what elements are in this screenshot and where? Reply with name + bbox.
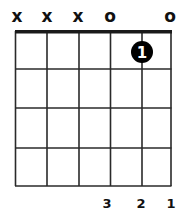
bottom-label-1: 1 [166, 196, 175, 211]
string-marker-4: x [73, 6, 84, 26]
string-markers: x x x o o [12, 6, 176, 26]
nut [15, 30, 172, 34]
bottom-label-3: 3 [102, 196, 111, 211]
chord-diagram: x x x o o 1 3 2 1 [0, 0, 183, 219]
finger-number: 1 [137, 44, 147, 62]
finger-dot-1: 1 [131, 41, 153, 63]
bottom-finger-labels: 3 2 1 [102, 196, 175, 211]
bottom-label-2: 2 [136, 196, 145, 211]
string-marker-3: o [104, 6, 116, 26]
string-marker-1: o [164, 6, 176, 26]
string-marker-6: x [12, 6, 23, 26]
string-marker-5: x [42, 6, 53, 26]
